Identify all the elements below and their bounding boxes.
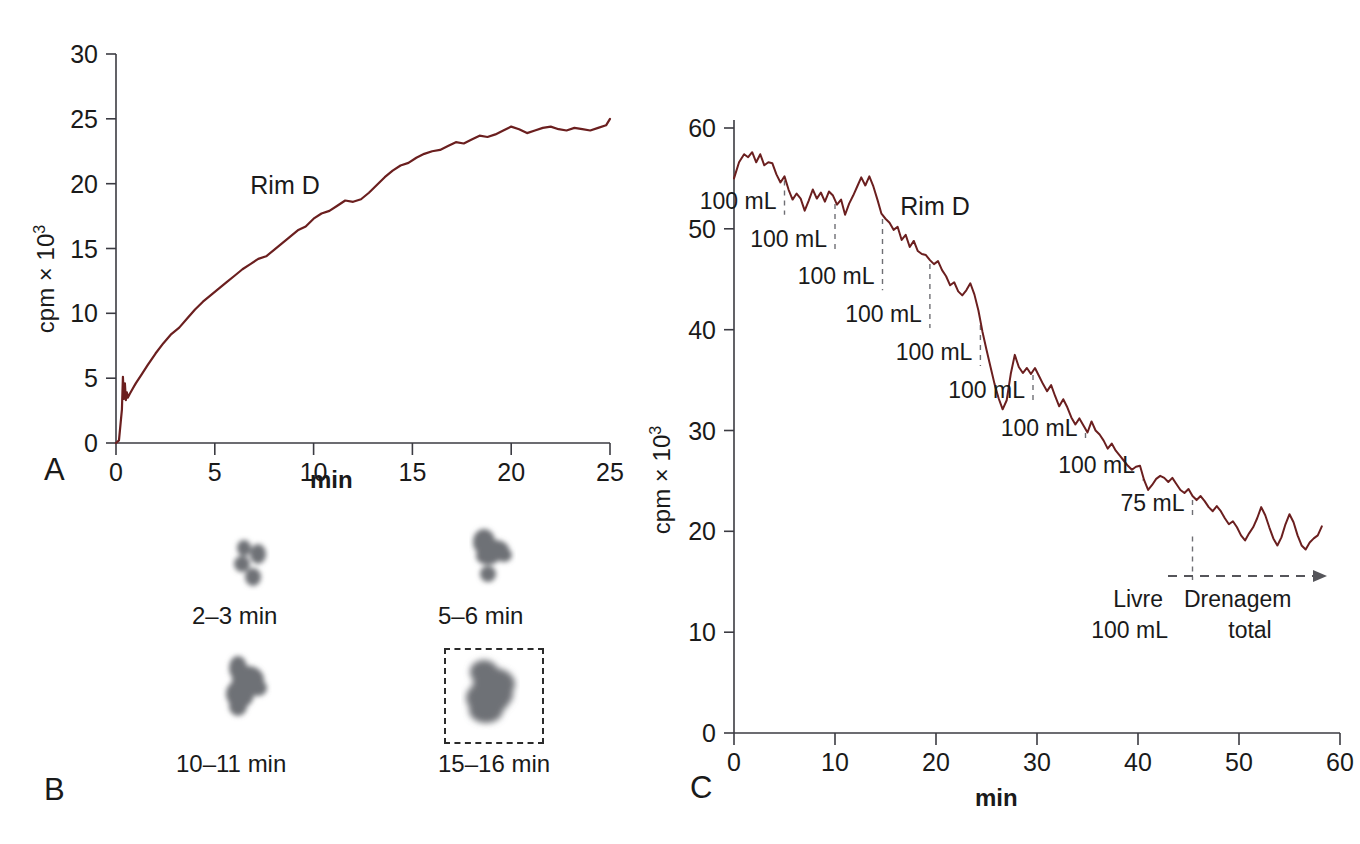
svg-text:60: 60: [1326, 748, 1354, 776]
svg-text:30: 30: [70, 40, 98, 68]
panel-label-a: A: [44, 452, 65, 488]
svg-text:10: 10: [688, 618, 716, 646]
panel-a-curve: [116, 119, 610, 443]
scinti-label-2-3min: 2–3 min: [192, 602, 277, 630]
panel-a-y-ticks: 0 5 10 15 20 25 30: [70, 40, 116, 457]
panel-a-x-title: min: [310, 466, 353, 494]
panel-a-series-label: Rim D: [250, 171, 319, 199]
svg-text:0: 0: [109, 458, 123, 486]
panel-c-x-title: min: [975, 784, 1018, 812]
figure-root: cpm × 103 0 5 10 15 20 25 30: [0, 0, 1360, 844]
panel-a-chart: cpm × 103 0 5 10 15 20 25 30: [10, 24, 660, 494]
scinti-frame-10-11min: [196, 644, 316, 754]
svg-text:30: 30: [1023, 748, 1051, 776]
annotation-volume-label: 100 mL: [700, 188, 777, 214]
svg-text:15: 15: [398, 458, 426, 486]
total-drainage-arrow: [1168, 570, 1327, 582]
svg-text:60: 60: [688, 114, 716, 142]
annotation-volume-label: 100 mL: [798, 263, 875, 289]
annotation-volume-label: 75 mL: [1121, 490, 1185, 516]
svg-text:0: 0: [727, 748, 741, 776]
svg-text:25: 25: [596, 458, 624, 486]
total-drain-label-line1: Drenagem: [1184, 586, 1291, 612]
free-drain-label-line1: Livre: [1113, 586, 1163, 612]
svg-text:0: 0: [702, 719, 716, 747]
svg-text:5: 5: [84, 364, 98, 392]
panel-c-y-title: cpm × 103: [647, 426, 675, 534]
free-drain-label-line2: 100 mL: [1091, 617, 1168, 643]
svg-text:5: 5: [208, 458, 222, 486]
svg-text:20: 20: [688, 517, 716, 545]
svg-text:10: 10: [70, 299, 98, 327]
annotation-volume-label: 100 mL: [948, 377, 1025, 403]
svg-text:50: 50: [1225, 748, 1253, 776]
scinti-frame-15-16min: [444, 648, 540, 740]
svg-text:20: 20: [497, 458, 525, 486]
scinti-frame-5-6min: [440, 522, 550, 612]
svg-text:20: 20: [922, 748, 950, 776]
svg-text:40: 40: [1124, 748, 1152, 776]
svg-text:50: 50: [688, 215, 716, 243]
svg-text:25: 25: [70, 105, 98, 133]
panel-a-x-ticks: 0 5 10 15 20 25: [109, 443, 624, 486]
panel-c-x-ticks: 0 10 20 30 40 50 60: [727, 733, 1354, 776]
panel-c-series-label: Rim D: [900, 192, 969, 220]
panel-c-chart: cpm × 103 0 10 20 30 40 50 60: [630, 80, 1360, 810]
svg-text:30: 30: [688, 417, 716, 445]
panel-c-annotation-labels: 100 mL100 mL100 mL100 mL100 mL100 mL100 …: [700, 188, 1185, 517]
scinti-label-5-6min: 5–6 min: [438, 602, 523, 630]
scinti-label-10-11min: 10–11 min: [176, 750, 286, 778]
svg-text:0: 0: [84, 429, 98, 457]
panel-label-c: C: [690, 770, 712, 806]
annotation-volume-label: 100 mL: [896, 339, 973, 365]
scinti-frame-2-3min: [212, 528, 312, 608]
panel-label-b: B: [44, 772, 65, 808]
annotation-volume-label: 100 mL: [845, 301, 922, 327]
svg-text:15: 15: [70, 235, 98, 263]
annotation-volume-label: 100 mL: [1058, 452, 1135, 478]
svg-text:40: 40: [688, 316, 716, 344]
svg-text:10: 10: [821, 748, 849, 776]
total-drain-label-line2: total: [1228, 617, 1271, 643]
annotation-volume-label: 100 mL: [750, 226, 827, 252]
svg-text:20: 20: [70, 170, 98, 198]
panel-c-curve: [734, 152, 1322, 549]
annotation-volume-label: 100 mL: [1001, 415, 1078, 441]
panel-a-y-title: cpm × 103: [31, 225, 59, 333]
scinti-label-15-16min: 15–16 min: [438, 750, 550, 778]
